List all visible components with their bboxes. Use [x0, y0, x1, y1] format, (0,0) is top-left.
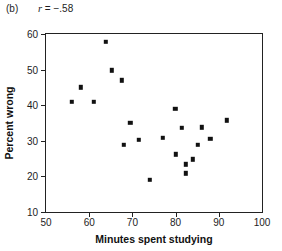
- data-point: [70, 99, 74, 103]
- y-axis-tick-label: 60: [27, 30, 38, 40]
- correlation-annotation: r = −.58: [38, 3, 73, 15]
- correlation-value: = −.58: [42, 3, 73, 14]
- data-point: [180, 126, 184, 130]
- data-point: [208, 136, 212, 140]
- x-axis-tick-label: 90: [213, 217, 224, 228]
- data-point: [103, 40, 107, 44]
- x-axis-tick-label: 50: [40, 217, 51, 228]
- x-axis-title: Minutes spent studying: [45, 233, 263, 245]
- data-point: [173, 152, 177, 156]
- data-points-layer: [46, 34, 262, 212]
- x-axis-tick-label: 60: [84, 217, 95, 228]
- y-axis-tick-label: 10: [27, 208, 38, 218]
- y-axis-tick-label: 20: [27, 172, 38, 182]
- y-axis-tick: 40: [41, 105, 46, 106]
- y-axis-tick: 20: [41, 176, 46, 177]
- data-point: [191, 157, 195, 161]
- data-point: [183, 171, 187, 175]
- data-point: [91, 99, 95, 103]
- y-axis-tick-label: 30: [27, 137, 38, 147]
- data-point: [109, 68, 113, 72]
- x-axis-tick-label: 100: [254, 217, 271, 228]
- data-point: [122, 143, 126, 147]
- y-axis-tick-label: 40: [27, 101, 38, 111]
- y-axis-tick: 10: [41, 212, 46, 213]
- y-axis-tick: 30: [41, 141, 46, 142]
- data-point: [78, 85, 82, 89]
- data-point: [199, 125, 203, 129]
- data-point: [224, 118, 228, 122]
- y-axis-title-label: Percent wrong: [3, 87, 15, 160]
- y-axis-title: Percent wrong: [2, 33, 16, 213]
- y-axis-tick-label: 50: [27, 66, 38, 76]
- data-point: [119, 78, 123, 82]
- data-point: [173, 107, 177, 111]
- scatter-plot-figure: (b) r = −.58 Percent wrong 1020304050605…: [0, 0, 282, 251]
- data-point: [183, 162, 187, 166]
- data-point: [196, 143, 200, 147]
- x-axis-tick-label: 70: [127, 217, 138, 228]
- data-point: [128, 121, 132, 125]
- plot-area: 1020304050605060708090100: [45, 33, 263, 213]
- panel-label: (b): [6, 3, 18, 15]
- data-point: [147, 178, 151, 182]
- y-axis-tick: 60: [41, 34, 46, 35]
- y-axis-tick: 50: [41, 70, 46, 71]
- x-axis-tick-label: 80: [170, 217, 181, 228]
- data-point: [137, 138, 141, 142]
- data-point: [160, 136, 164, 140]
